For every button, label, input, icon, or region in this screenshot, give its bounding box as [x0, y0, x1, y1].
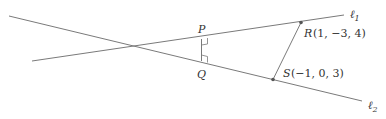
label-p: P	[197, 23, 206, 36]
point-s	[271, 78, 275, 82]
line-l1	[32, 15, 344, 61]
right-angle-marker-p	[202, 38, 208, 45]
label-s: S	[283, 67, 291, 80]
skew-lines-diagram: P Q R (1, −3, 4) S (−1, 0, 3) ℓ1 ℓ2	[0, 0, 386, 119]
label-r-coords: (1, −3, 4)	[313, 27, 366, 40]
right-angle-marker-q	[202, 55, 208, 63]
label-r: R	[303, 27, 312, 40]
label-l2: ℓ2	[368, 99, 378, 114]
label-s-coords: (−1, 0, 3)	[291, 67, 344, 80]
point-r	[299, 21, 303, 25]
label-l1: ℓ1	[350, 8, 360, 23]
label-q: Q	[197, 68, 206, 81]
